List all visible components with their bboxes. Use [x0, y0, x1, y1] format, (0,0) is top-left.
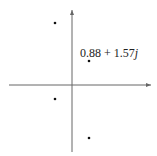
- pole-point-2: [88, 60, 91, 63]
- real-axis-arrow-icon: [146, 83, 151, 87]
- complex-plane: [0, 0, 157, 156]
- pole-point-4: [88, 137, 91, 140]
- pole-point-1: [54, 22, 57, 25]
- point-label: 0.88 + 1.57j: [80, 47, 138, 59]
- pole-point-3: [54, 98, 57, 101]
- point-label-value: 0.88 + 1.57: [80, 46, 135, 60]
- imaginary-axis-arrow-icon: [70, 10, 74, 15]
- imaginary-unit: j: [135, 46, 138, 60]
